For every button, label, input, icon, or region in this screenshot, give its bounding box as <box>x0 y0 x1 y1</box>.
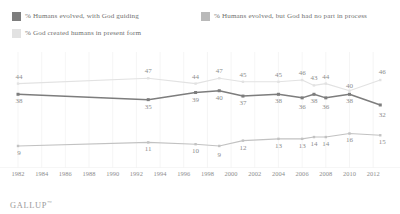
data-point-label: 10 <box>192 148 199 155</box>
data-point-label: 36 <box>299 104 306 111</box>
data-point-label: 44 <box>16 74 23 81</box>
data-point-label: 44 <box>322 74 329 81</box>
x-axis-tick-label: 2012 <box>367 170 380 178</box>
x-axis-tick-label: 1988 <box>82 170 95 178</box>
x-axis-tick-label: 2002 <box>248 170 261 178</box>
x-axis-tick-label: 2010 <box>343 170 356 178</box>
x-axis-tick-label: 1986 <box>59 170 72 178</box>
x-axis-tick-label: 1998 <box>201 170 214 178</box>
data-point-label: 35 <box>145 104 152 111</box>
x-axis-tick-labels: 1982198419861988199019921994199619982000… <box>0 170 400 184</box>
data-point-label: 16 <box>346 137 353 144</box>
data-point-label: 47 <box>145 68 152 75</box>
gallup-logo-text: GALLUP <box>10 201 47 210</box>
gallup-logo: GALLUP™ <box>10 201 52 210</box>
x-axis-tick-label: 1996 <box>177 170 190 178</box>
data-point-label: 15 <box>379 139 386 146</box>
data-point-label: 47 <box>216 68 223 75</box>
data-point-label: 46 <box>299 70 306 77</box>
data-point-label: 38 <box>16 98 23 105</box>
data-labels-layer: 4447444745454643444046383539403738363836… <box>0 0 400 190</box>
data-point-label: 9 <box>218 152 222 159</box>
data-point-label: 32 <box>379 112 386 119</box>
data-point-label: 9 <box>17 150 21 157</box>
data-point-label: 45 <box>239 72 246 79</box>
data-point-label: 13 <box>299 143 306 150</box>
chart-footer: GALLUP™ <box>10 194 52 212</box>
data-point-label: 13 <box>275 143 282 150</box>
x-axis-tick-label: 1982 <box>11 170 24 178</box>
data-point-label: 38 <box>310 98 317 105</box>
data-point-label: 43 <box>310 75 317 82</box>
data-point-label: 37 <box>239 100 246 107</box>
data-point-label: 14 <box>310 141 317 148</box>
data-point-label: 40 <box>216 95 223 102</box>
x-axis-tick-label: 1994 <box>154 170 167 178</box>
data-point-label: 39 <box>192 97 199 104</box>
trademark-icon: ™ <box>47 200 52 205</box>
data-point-label: 12 <box>239 145 246 152</box>
data-point-label: 14 <box>322 141 329 148</box>
data-point-label: 36 <box>322 104 329 111</box>
data-point-label: 44 <box>192 74 199 81</box>
data-point-label: 38 <box>275 98 282 105</box>
x-axis-tick-label: 2008 <box>319 170 332 178</box>
data-point-label: 45 <box>275 72 282 79</box>
data-point-label: 40 <box>346 83 353 90</box>
data-point-label: 38 <box>346 98 353 105</box>
x-axis-tick-label: 2006 <box>296 170 309 178</box>
x-axis-tick-label: 1992 <box>130 170 143 178</box>
x-axis-tick-label: 2004 <box>272 170 285 178</box>
x-axis-tick-label: 1990 <box>106 170 119 178</box>
gallup-evolution-line-chart: % Humans evolved, with God guiding % Hum… <box>0 0 400 214</box>
data-point-label: 46 <box>379 69 386 76</box>
x-axis-tick-label: 2000 <box>225 170 238 178</box>
data-point-label: 11 <box>145 146 152 153</box>
x-axis-tick-label: 1984 <box>35 170 48 178</box>
